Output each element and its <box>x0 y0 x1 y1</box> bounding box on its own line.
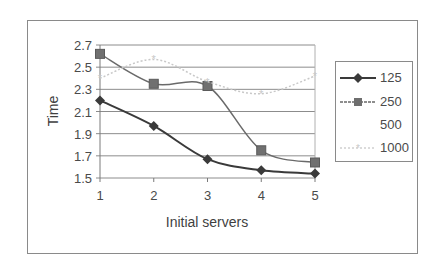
y-tick-label: 2.7 <box>74 38 92 53</box>
legend-label: 1000 <box>380 140 409 155</box>
x-tick-label: 2 <box>150 188 157 203</box>
data-series: ***** <box>95 49 320 178</box>
square-marker-icon <box>149 79 158 88</box>
chart-legend: 125 250 500 * 1000 <box>335 61 413 162</box>
svg-text:*: * <box>356 143 360 154</box>
star-marker-icon: * <box>313 70 318 82</box>
legend-item-125: 125 <box>336 67 414 89</box>
star-marker-icon: * <box>259 88 264 100</box>
y-axis-title: Time <box>45 95 61 126</box>
x-axis-ticks: 12345 <box>96 188 318 203</box>
star-marker-icon: * <box>152 53 157 65</box>
diamond-marker-icon <box>256 165 266 175</box>
diamond-marker-icon <box>95 95 105 105</box>
legend-label: 500 <box>380 117 402 132</box>
x-tick-label: 1 <box>96 188 103 203</box>
y-tick-label: 2.3 <box>74 82 92 97</box>
square-marker-icon <box>96 49 105 58</box>
x-tick-label: 4 <box>258 188 265 203</box>
y-axis-ticks: 2.72.52.32.11.91.71.5 <box>74 38 92 186</box>
square-marker-icon <box>340 91 380 113</box>
star-marker-icon: * <box>340 137 380 159</box>
y-tick-label: 1.7 <box>74 149 92 164</box>
y-tick-label: 2.5 <box>74 60 92 75</box>
y-tick-label: 1.9 <box>74 127 92 142</box>
legend-label: 125 <box>380 70 402 85</box>
series-125 <box>95 95 320 178</box>
x-axis-title: Initial servers <box>166 214 248 230</box>
legend-item-500: 500 <box>336 114 414 136</box>
y-tick-label: 1.5 <box>74 171 92 186</box>
legend-label: 250 <box>380 94 402 109</box>
y-tick-label: 2.1 <box>74 105 92 120</box>
x-tick-label: 5 <box>311 188 318 203</box>
square-marker-icon <box>257 146 266 155</box>
square-marker-icon <box>311 158 320 167</box>
star-marker-icon: * <box>205 76 210 88</box>
diamond-marker-icon <box>310 169 320 179</box>
legend-item-250: 250 <box>336 91 414 113</box>
diamond-marker-icon <box>340 67 380 89</box>
x-tick-label: 3 <box>204 188 211 203</box>
star-marker-icon: * <box>98 72 103 84</box>
diamond-marker-icon <box>149 121 159 131</box>
series-1000: ***** <box>98 53 318 99</box>
legend-item-1000: * 1000 <box>336 137 414 159</box>
